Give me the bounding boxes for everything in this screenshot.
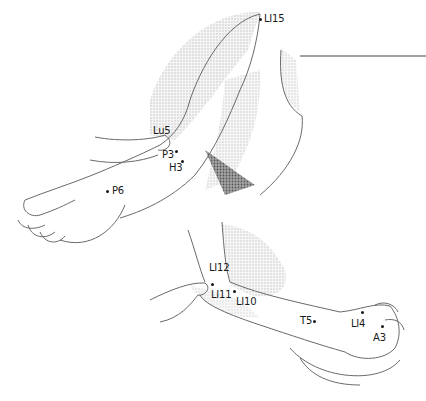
point-marker-p3	[175, 150, 178, 153]
arm-drawings	[0, 0, 426, 401]
point-label-lu5: Lu5	[153, 126, 171, 136]
point-label-p3: P3	[162, 150, 174, 160]
point-label-p6: P6	[112, 186, 124, 196]
point-marker-li4	[361, 311, 364, 314]
acupoint-illustration: LI15 Lu5 P3 H3 P6 LI12 LI11 LI10 T5 LI4 …	[0, 0, 426, 401]
point-label-li15: LI15	[264, 14, 284, 24]
point-label-li12: LI12	[209, 263, 229, 273]
point-marker-p6	[106, 190, 109, 193]
point-marker-a3	[381, 325, 384, 328]
point-marker-li11	[233, 290, 236, 293]
point-label-li4: LI4	[351, 319, 365, 329]
point-label-a3: A3	[373, 333, 386, 343]
point-label-t5: T5	[300, 316, 312, 326]
point-marker-li12	[211, 283, 214, 286]
point-marker-t5	[313, 320, 316, 323]
point-label-li10: LI10	[236, 297, 256, 307]
point-marker-li15	[259, 18, 262, 21]
point-label-li11: LI11	[211, 290, 231, 300]
point-label-h3: H3	[169, 163, 182, 173]
lower-arm-outline	[150, 222, 404, 385]
